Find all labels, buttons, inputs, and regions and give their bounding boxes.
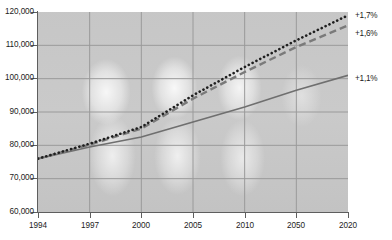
- plot-area: [38, 12, 348, 212]
- end-label-series-1-7-percent: +1,7%: [355, 12, 377, 20]
- x-axis-label-1994: 1994: [18, 222, 58, 230]
- series-layer: [38, 12, 348, 212]
- x-axis-label-2000: 2000: [121, 222, 161, 230]
- y-axis-label-110000: 110,000: [0, 41, 34, 49]
- x-axis-label-2050: 2050: [276, 222, 316, 230]
- y-axis-label-60000: 60,000: [0, 208, 34, 216]
- x-axis-label-2010: 2010: [225, 222, 265, 230]
- series-line-1-7-percent: [38, 15, 348, 158]
- x-tick-2020: [348, 212, 349, 218]
- end-label-series-1-1-percent: +1,1%: [355, 75, 377, 83]
- y-axis-label-90000: 90,000: [0, 108, 34, 116]
- x-axis-label-1997: 1997: [70, 222, 110, 230]
- x-tick-1994: [38, 212, 39, 218]
- series-line-1-6-percent: [38, 25, 348, 158]
- x-axis-label-2005: 2005: [173, 222, 213, 230]
- x-axis-label-2020: 2020: [328, 222, 368, 230]
- y-axis-label-80000: 80,000: [0, 141, 34, 149]
- x-tick-2000: [141, 212, 142, 218]
- x-tick-2005: [193, 212, 194, 218]
- x-tick-2050: [296, 212, 297, 218]
- y-axis-label-100000: 100,000: [0, 74, 34, 82]
- end-label-series-1-6-percent: +1,6%: [355, 30, 377, 38]
- line-chart: 120,000 110,000 100,000 90,000 80,000 70…: [0, 0, 392, 240]
- x-tick-1997: [90, 212, 91, 218]
- y-axis-label-120000: 120,000: [0, 8, 34, 16]
- x-tick-2010: [245, 212, 246, 218]
- y-axis-label-70000: 70,000: [0, 174, 34, 182]
